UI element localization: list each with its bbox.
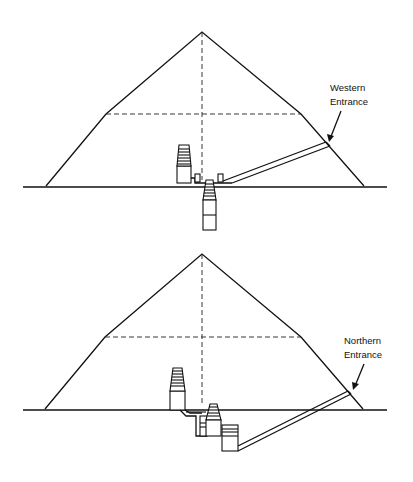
pyramid-outline — [45, 254, 363, 409]
label-line2: Entrance — [330, 96, 368, 107]
diagram-canvas: Western Entrance — [0, 0, 413, 482]
label-line1: Northern — [344, 335, 381, 346]
label-line1: Western — [330, 82, 365, 93]
pyramid-section-northern: Northern Entrance — [23, 254, 387, 451]
lower-chamber — [203, 180, 216, 230]
arrowhead-icon — [352, 382, 359, 390]
pyramid-outline — [46, 32, 364, 186]
arrow-icon — [330, 111, 341, 139]
corbelled-chamber-upper — [170, 368, 185, 410]
northern-entrance-callout: Northern Entrance — [344, 335, 382, 390]
arrowhead-icon — [327, 134, 334, 142]
lower-chambers — [180, 404, 238, 451]
entrance-passage — [238, 391, 351, 451]
label-line2: Entrance — [344, 349, 382, 360]
arrow-icon — [355, 364, 364, 386]
entrance-passage — [223, 142, 330, 183]
western-entrance-callout: Western Entrance — [327, 82, 368, 142]
corbelled-chamber-upper — [177, 145, 191, 183]
pyramid-section-western: Western Entrance — [23, 32, 387, 230]
